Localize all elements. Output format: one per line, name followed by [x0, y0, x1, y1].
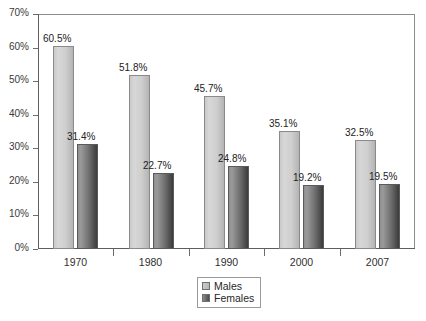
bar-males-1970[interactable] — [53, 46, 74, 249]
x-axis-tick-mark — [340, 249, 341, 256]
y-axis-tick-label: 10% — [9, 208, 29, 219]
y-axis-tick-mark — [33, 249, 38, 250]
bar-males-2000[interactable] — [279, 131, 300, 249]
bar-chart: 0%10%20%30%40%50%60%70% 1970198019902000… — [0, 0, 426, 321]
x-axis-category-label: 1970 — [38, 256, 113, 269]
bar-value-label: 51.8% — [119, 62, 147, 73]
x-axis-tick-mark — [264, 249, 265, 256]
legend-swatch-females-icon — [202, 294, 210, 302]
bar-value-label: 45.7% — [194, 83, 222, 94]
bar-value-label: 60.5% — [43, 33, 71, 44]
bar-value-label: 35.1% — [269, 118, 297, 129]
bar-females-1980[interactable] — [153, 173, 174, 249]
chart-legend: Males Females — [197, 277, 261, 308]
y-axis-tick-mark — [33, 115, 38, 116]
bar-value-label: 32.5% — [345, 127, 373, 138]
bar-males-1990[interactable] — [204, 96, 225, 249]
x-axis-category-label: 1990 — [189, 256, 264, 269]
y-axis-tick-label: 50% — [9, 74, 29, 85]
y-axis-tick-mark — [33, 182, 38, 183]
y-axis-tick-label: 70% — [9, 7, 29, 18]
bar-value-label: 24.8% — [218, 153, 246, 164]
y-axis-line — [38, 14, 39, 249]
y-axis-tick-mark — [33, 48, 38, 49]
x-axis-tick-mark — [189, 249, 190, 256]
y-axis-tick-label: 20% — [9, 175, 29, 186]
legend-label-females: Females — [214, 292, 254, 304]
bar-value-label: 22.7% — [143, 160, 171, 171]
bar-females-2000[interactable] — [303, 185, 324, 249]
y-axis-tick-label: 0% — [15, 242, 29, 253]
y-axis-tick-mark — [33, 148, 38, 149]
y-axis-tick-label: 30% — [9, 141, 29, 152]
y-axis-tick-mark — [33, 215, 38, 216]
bar-females-2007[interactable] — [379, 184, 400, 249]
bar-females-1990[interactable] — [228, 166, 249, 249]
bar-females-1970[interactable] — [77, 144, 98, 249]
bar-value-label: 19.5% — [369, 171, 397, 182]
x-axis-category-label: 2007 — [340, 256, 415, 269]
y-axis-tick-label: 60% — [9, 41, 29, 52]
legend-label-males: Males — [214, 280, 242, 292]
bar-males-2007[interactable] — [355, 140, 376, 249]
x-axis-tick-mark — [113, 249, 114, 256]
y-axis-tick-label: 40% — [9, 108, 29, 119]
y-axis-tick-mark — [33, 81, 38, 82]
x-axis-category-label: 1980 — [113, 256, 188, 269]
y-axis-tick-mark — [33, 14, 38, 15]
bar-value-label: 31.4% — [67, 131, 95, 142]
legend-item-males[interactable]: Males — [202, 280, 254, 292]
bar-value-label: 19.2% — [293, 172, 321, 183]
legend-swatch-males-icon — [202, 282, 210, 290]
x-axis-category-label: 2000 — [264, 256, 339, 269]
legend-item-females[interactable]: Females — [202, 292, 254, 304]
